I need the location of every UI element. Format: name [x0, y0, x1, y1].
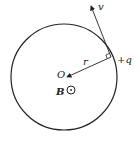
- field-symbol-dot: [70, 89, 72, 91]
- field-label: B: [56, 87, 64, 97]
- velocity-arrow: [91, 6, 111, 57]
- diagram-svg: [0, 0, 140, 141]
- center-label: O: [57, 70, 65, 80]
- velocity-label: v: [98, 2, 104, 12]
- diagram-canvas: v r +q O B: [0, 0, 140, 141]
- charge-label: +q: [117, 55, 132, 65]
- radius-label: r: [83, 57, 88, 67]
- radius-arrow: [67, 57, 111, 77]
